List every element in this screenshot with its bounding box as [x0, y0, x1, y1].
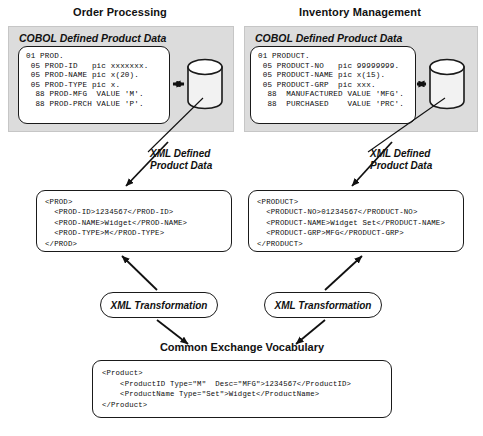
- xml-code-box-inventory-management: <PRODUCT> <PRODUCT-NO>01234567</PRODUCT-…: [248, 190, 464, 252]
- arrow-transformation-to-xml-right: [325, 256, 362, 290]
- annotation-line-2-left: Product Data: [150, 160, 212, 172]
- annotation-xml-defined-product-data-right: XML Defined Product Data: [370, 148, 432, 172]
- xml-code-text-inventory-management: <PRODUCT> <PRODUCT-NO>01234567</PRODUCT-…: [249, 191, 463, 255]
- section-title-inventory-management: Inventory Management: [244, 6, 476, 18]
- cobol-code-text-order-processing: 01 PROD. 05 PROD-ID pic xxxxxxx. 05 PROD…: [19, 47, 169, 115]
- cobol-code-box-inventory-management: 01 PRODUCT. 05 PRODUCT-NO pic 99999999. …: [250, 46, 416, 124]
- cobol-code-box-order-processing: 01 PROD. 05 PROD-ID pic xxxxxxx. 05 PROD…: [18, 46, 170, 124]
- xml-transformation-node-inventory-management: XML Transformation: [264, 292, 382, 318]
- diagram-canvas: Order Processing Inventory Management CO…: [0, 0, 483, 436]
- common-exchange-vocabulary-code-text: <Product> <ProductID Type="M" Desc="MFG"…: [93, 361, 391, 417]
- xml-code-text-order-processing: <PROD> <PROD-ID>1234567</PROD-ID> <PROD-…: [37, 191, 231, 255]
- annotation-line-2-right: Product Data: [370, 160, 432, 172]
- common-exchange-vocabulary-code-box: <Product> <ProductID Type="M" Desc="MFG"…: [92, 360, 392, 418]
- common-exchange-vocabulary-heading: Common Exchange Vocabulary: [92, 341, 392, 353]
- xml-code-box-order-processing: <PROD> <PROD-ID>1234567</PROD-ID> <PROD-…: [36, 190, 232, 252]
- arrow-transformation-to-xml-left: [122, 256, 157, 290]
- xml-transformation-node-order-processing: XML Transformation: [100, 292, 218, 318]
- section-title-order-processing: Order Processing: [8, 6, 232, 18]
- panel-label-cobol-defined-product-data-left: COBOL Defined Product Data: [19, 32, 166, 44]
- database-cylinder-icon-inventory-management: [428, 58, 466, 110]
- cobol-code-text-inventory-management: 01 PRODUCT. 05 PRODUCT-NO pic 99999999. …: [251, 47, 415, 115]
- annotation-xml-defined-product-data-left: XML Defined Product Data: [150, 148, 212, 172]
- annotation-line-1-right: XML Defined: [370, 148, 432, 160]
- panel-label-cobol-defined-product-data-right: COBOL Defined Product Data: [255, 32, 402, 44]
- annotation-line-1-left: XML Defined: [150, 148, 212, 160]
- database-cylinder-icon-order-processing: [186, 58, 224, 110]
